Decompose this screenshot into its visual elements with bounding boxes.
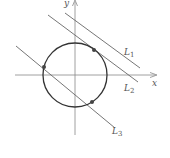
intersection-point-L3-upper xyxy=(42,65,46,69)
intersection-point-L3-lower xyxy=(90,100,94,104)
line-L3 xyxy=(16,46,115,128)
x-axis-label: x xyxy=(152,78,157,88)
diagram-canvas: y x L1 L2 L3 xyxy=(0,0,170,158)
diagram-svg: y x L1 L2 L3 xyxy=(0,0,170,158)
label-L3: L3 xyxy=(111,126,122,138)
y-axis-label: y xyxy=(63,0,70,8)
tangent-point-L2 xyxy=(92,48,96,52)
label-L2: L2 xyxy=(123,83,134,95)
